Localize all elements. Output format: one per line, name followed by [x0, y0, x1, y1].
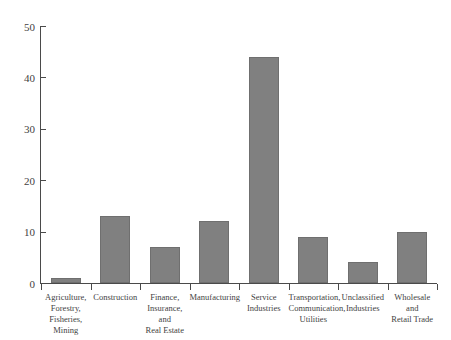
bar[interactable] [397, 232, 427, 283]
y-axis-tick-label: 50 [24, 21, 35, 32]
x-axis-category-label-line: Unclassified [338, 292, 388, 303]
y-axis-tick-label: 0 [30, 278, 36, 289]
x-axis-tick-mark [437, 284, 438, 290]
x-axis-category-label-line: Real Estate [140, 325, 190, 336]
x-axis-category-label: ServiceIndustries [239, 292, 289, 314]
x-axis-category-label-line: Manufacturing [190, 292, 240, 303]
x-axis-category-label: Agriculture,Forestry,Fisheries, Mining [41, 292, 91, 336]
x-axis-category-label-line: Retail Trade [388, 314, 438, 325]
x-axis-category-label-line: Industries [239, 303, 289, 314]
x-axis-category-label-line: Finance, [140, 292, 190, 303]
x-axis-category-label-line: Wholesale and [388, 292, 438, 314]
x-axis-category-label: Wholesale andRetail Trade [388, 292, 438, 325]
y-axis-tick-label: 20 [24, 175, 35, 186]
bars-layer [41, 26, 437, 283]
x-axis-category-label: UnclassifiedIndustries [338, 292, 388, 314]
y-axis-tick-label: 40 [24, 72, 35, 83]
x-axis-category-label: Finance,Insurance, andReal Estate [140, 292, 190, 336]
x-axis-category-label: Construction [91, 292, 141, 303]
category-labels: Agriculture,Forestry,Fisheries, MiningCo… [41, 292, 437, 338]
x-axis-category-label-line: Construction [91, 292, 141, 303]
x-axis-category-label: Manufacturing [190, 292, 240, 303]
bar[interactable] [348, 262, 378, 283]
x-axis-category-label-line: Utilities [289, 314, 339, 325]
y-axis-tick-label: 30 [24, 124, 35, 135]
x-axis-category-label-line: Industries [338, 303, 388, 314]
bar[interactable] [100, 216, 130, 283]
bar[interactable] [298, 237, 328, 283]
bar[interactable] [51, 278, 81, 283]
x-axis-category-label-line: Insurance, and [140, 303, 190, 325]
x-axis-category-label-line: Fisheries, Mining [41, 314, 91, 336]
x-axis-tick-mark [289, 284, 290, 290]
x-axis-tick-mark [239, 284, 240, 290]
x-axis-tick-mark [41, 284, 42, 290]
bar[interactable] [150, 247, 180, 283]
bar[interactable] [249, 57, 279, 283]
y-axis-tick-label: 10 [24, 227, 35, 238]
x-axis-category-label-line: Transportation, [289, 292, 339, 303]
x-axis-category-label: Transportation,Communication,Utilities [289, 292, 339, 325]
bar[interactable] [199, 221, 229, 283]
x-axis-category-label-line: Communication, [289, 303, 339, 314]
x-axis-tick-mark [338, 284, 339, 290]
bar-chart: 01020304050 Agriculture,Forestry,Fisheri… [0, 0, 451, 340]
x-axis-category-label-line: Forestry, [41, 303, 91, 314]
x-axis-category-label-line: Service [239, 292, 289, 303]
x-axis-tick-mark [140, 284, 141, 290]
x-axis-tick-mark [91, 284, 92, 290]
x-axis-category-label-line: Agriculture, [41, 292, 91, 303]
x-axis-tick-mark [388, 284, 389, 290]
x-axis-tick-mark [190, 284, 191, 290]
